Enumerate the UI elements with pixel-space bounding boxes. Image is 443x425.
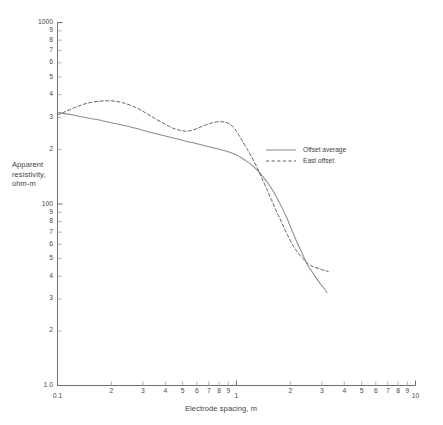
y-axis-minor-tick-label: 6 [30, 240, 53, 247]
x-axis-minor-tick-label: 3 [314, 387, 330, 394]
y-axis-minor-tick-label: 2 [30, 326, 53, 333]
x-axis-minor-tick-label: 9 [399, 387, 415, 394]
x-axis-minor-tick-label: 3 [135, 387, 151, 394]
y-axis-minor-tick-label: 4 [30, 90, 53, 97]
legend-label-0: Offset average [303, 146, 346, 153]
series-line-1 [58, 101, 329, 272]
y-axis-minor-tick-label: 5 [30, 73, 53, 80]
series-line-0 [58, 112, 327, 292]
y-axis-minor-tick-label: 9 [30, 26, 53, 33]
x-axis-minor-tick-label: 2 [103, 387, 119, 394]
y-axis-minor-tick-label: 6 [30, 58, 53, 65]
chart-figure: Apparent resistivity, ohm-m Electrode sp… [0, 0, 443, 425]
y-axis-minor-tick-label: 4 [30, 272, 53, 279]
y-axis-minor-tick-label: 3 [30, 113, 53, 120]
legend-label-1: East offset [303, 157, 334, 164]
y-axis-minor-tick-label: 8 [30, 36, 53, 43]
y-axis-tick-label: 1.0 [6, 381, 53, 388]
x-axis-minor-tick-label: 4 [336, 387, 352, 394]
y-axis-minor-tick-label: 3 [30, 294, 53, 301]
x-axis-minor-tick-label: 4 [157, 387, 173, 394]
y-axis-tick-label: 1000 [6, 18, 53, 25]
y-axis-minor-tick-label: 7 [30, 228, 53, 235]
y-axis-minor-tick-label: 5 [30, 254, 53, 261]
y-axis-minor-tick-label: 8 [30, 217, 53, 224]
y-axis-minor-tick-label: 2 [30, 145, 53, 152]
x-axis-minor-tick-label: 9 [220, 387, 236, 394]
y-axis-minor-tick-label: 7 [30, 46, 53, 53]
x-axis-tick-label: 0.1 [48, 392, 68, 399]
plot-canvas [0, 0, 443, 425]
x-axis-minor-tick-label: 2 [282, 387, 298, 394]
y-axis-tick-label: 100 [6, 200, 53, 207]
y-axis-minor-tick-label: 9 [30, 208, 53, 215]
